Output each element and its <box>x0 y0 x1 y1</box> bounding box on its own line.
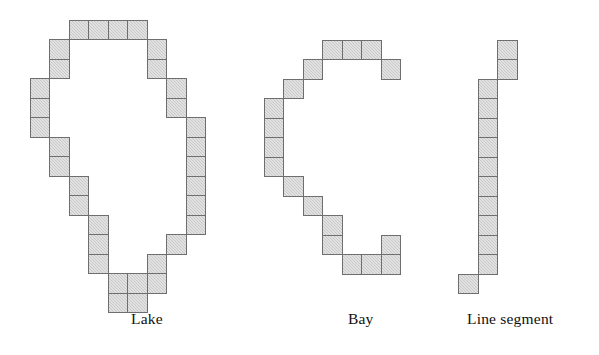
raster-shapes-figure: Lake Bay Line segment <box>0 0 599 355</box>
grid-cell <box>478 196 499 217</box>
grid-cell <box>497 59 518 80</box>
caption-lake: Lake <box>131 310 163 328</box>
grid-cell <box>478 176 499 197</box>
grid-cell <box>478 235 499 256</box>
grid-cell <box>478 215 499 236</box>
grid-cell <box>497 40 518 61</box>
grid-cell <box>478 254 499 275</box>
grid-cell <box>478 118 499 139</box>
caption-line-segment: Line segment <box>467 310 553 328</box>
caption-bay: Bay <box>348 310 374 328</box>
shape-line-segment <box>0 0 599 355</box>
grid-cell <box>478 98 499 119</box>
grid-cell <box>458 274 479 295</box>
grid-cell <box>478 79 499 100</box>
grid-cell <box>478 137 499 158</box>
grid-cell <box>478 157 499 178</box>
